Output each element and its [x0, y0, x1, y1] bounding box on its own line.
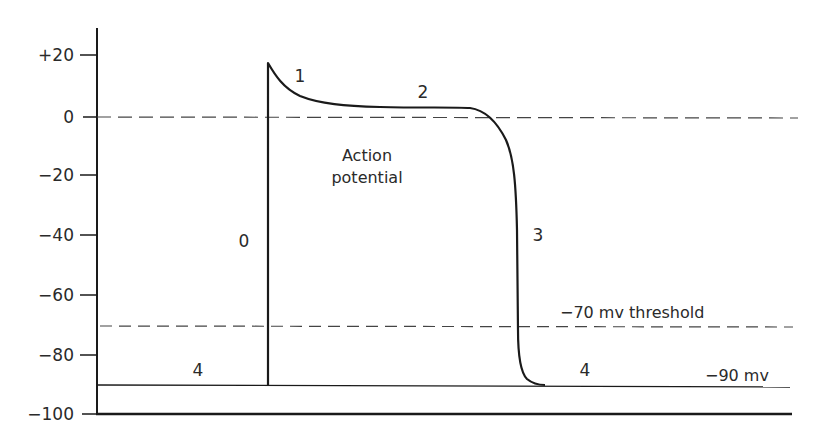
y-tick-label-0: 0: [63, 107, 74, 127]
phase-4-left-label: 4: [193, 360, 204, 380]
y-tick-label-minus60: −60: [38, 285, 74, 305]
y-tick-label-minus20: −20: [38, 165, 74, 185]
phase-3-label: 3: [533, 225, 544, 245]
action-potential-curve: [268, 63, 545, 385]
phase-2-label: 2: [418, 82, 429, 102]
action-potential-chart: +20 0 −20 −40 −60 −80 −100 0 1 2 3 4 4 A…: [0, 0, 825, 443]
y-ticks: [80, 55, 97, 414]
phase-1-label: 1: [295, 66, 306, 86]
resting-baseline: [97, 385, 790, 387]
threshold-line: [100, 326, 793, 327]
zero-reference-line: [97, 117, 798, 118]
y-tick-label-minus100: −100: [27, 404, 74, 424]
phase-0-label: 0: [239, 231, 250, 251]
resting-annotation: −90 mv: [705, 366, 769, 385]
curve-label-line1: Action: [342, 146, 392, 165]
curve-label-line2: potential: [331, 168, 402, 187]
y-tick-label-minus40: −40: [38, 225, 74, 245]
threshold-annotation: −70 mv threshold: [560, 303, 704, 322]
y-tick-label-minus80: −80: [38, 345, 74, 365]
y-tick-label-plus20: +20: [38, 45, 74, 65]
phase-4-right-label: 4: [580, 360, 591, 380]
